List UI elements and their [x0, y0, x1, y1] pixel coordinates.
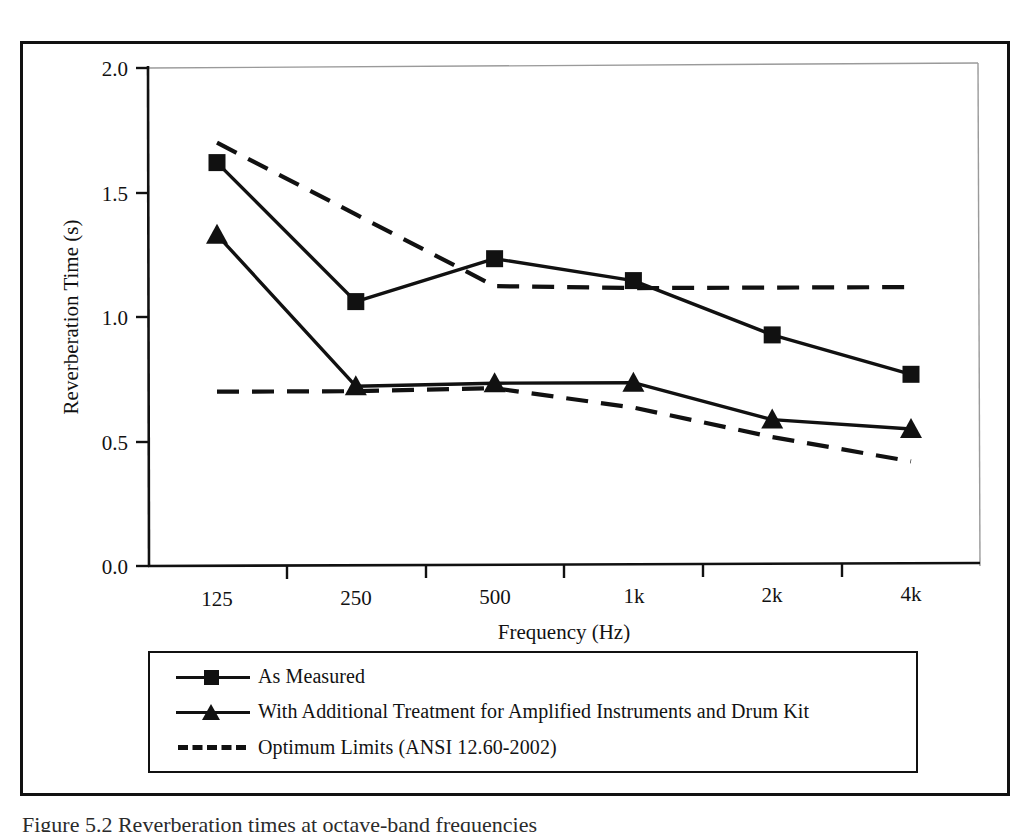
legend-item-optimum-limits[interactable]: Optimum Limits (ANSI 12.60-2002) — [150, 730, 916, 764]
x-tick-label: 125 — [201, 587, 233, 611]
legend-swatch-square-icon — [174, 666, 252, 688]
data-point-square-marker — [903, 366, 920, 383]
x-tick-label: 2k — [762, 583, 784, 607]
optimum-lower-limit-line — [217, 388, 911, 461]
y-tick-label: 0.5 — [102, 431, 128, 455]
data-point-triangle-marker — [206, 224, 228, 244]
data-point-square-marker — [209, 154, 226, 171]
data-point-square-marker — [486, 250, 503, 267]
series-layer — [206, 143, 922, 462]
x-axis-title: Frequency (Hz) — [498, 620, 630, 644]
figure-caption: Figure 5.2 Reverberation times at octave… — [22, 812, 982, 832]
data-point-square-marker — [347, 293, 364, 310]
y-tick-label: 2.0 — [102, 57, 128, 81]
legend-label: Optimum Limits (ANSI 12.60-2002) — [258, 736, 557, 759]
y-tick-label: 0.0 — [102, 555, 128, 579]
x-tick-label: 500 — [479, 585, 511, 609]
plot-panel-frame — [148, 63, 980, 566]
x-tick-label: 4k — [901, 582, 923, 606]
figure-root: 2.0 1.5 1.0 0.5 0.0 Reverberation Time (… — [0, 0, 1032, 832]
x-axis — [148, 563, 980, 579]
legend-label: With Additional Treatment for Amplified … — [258, 700, 809, 723]
y-tick-labels: 2.0 1.5 1.0 0.5 0.0 — [102, 57, 128, 579]
x-tick-label: 1k — [624, 584, 646, 608]
data-point-square-marker — [764, 326, 781, 343]
y-axis — [136, 66, 149, 567]
chart-legend: As Measured With Additional Treatment fo… — [148, 651, 918, 773]
data-point-square-marker — [625, 272, 642, 289]
legend-swatch-triangle-icon — [174, 701, 252, 723]
series-square — [209, 154, 920, 383]
legend-swatch-dashed-icon — [174, 736, 252, 758]
series-triangle — [206, 224, 922, 438]
legend-label: As Measured — [258, 665, 365, 688]
legend-item-as-measured[interactable]: As Measured — [150, 660, 916, 694]
x-tick-labels: 125 250 500 1k 2k 4k — [201, 582, 922, 611]
x-tick-label: 250 — [340, 586, 372, 610]
y-tick-label: 1.0 — [102, 306, 128, 330]
y-tick-label: 1.5 — [102, 182, 128, 206]
legend-item-with-additional-treatment[interactable]: With Additional Treatment for Amplified … — [150, 695, 916, 729]
y-axis-title: Reverberation Time (s) — [59, 220, 83, 415]
